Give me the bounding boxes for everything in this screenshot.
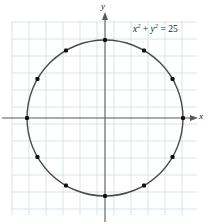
x-axis-label: x (199, 112, 203, 121)
equation-rhs: 25 (168, 24, 178, 34)
y-axis-arrow-icon (102, 12, 108, 20)
circle-point-marker (103, 38, 107, 42)
circle-point-marker (171, 155, 175, 159)
circle-point-marker (25, 116, 29, 120)
equation-plus: + (140, 24, 150, 34)
x-axis-arrow-icon (190, 115, 198, 121)
circle-point-marker (142, 184, 146, 188)
circle-point-marker (35, 77, 39, 81)
circle-point-marker (171, 77, 175, 81)
circle-point-marker (103, 194, 107, 198)
y-axis-label: y (101, 2, 105, 11)
plot-canvas (0, 0, 210, 224)
circle-point-marker (64, 184, 68, 188)
equation-equals: = (158, 24, 168, 34)
axes (2, 12, 198, 222)
equation-annotation: x2 + y2 = 25 (133, 25, 178, 35)
circle-graph-figure: y x x2 + y2 = 25 (0, 0, 210, 224)
circle-point-marker (64, 48, 68, 52)
circle-point-marker (181, 116, 185, 120)
circle-point-marker (35, 155, 39, 159)
circle-point-marker (142, 48, 146, 52)
